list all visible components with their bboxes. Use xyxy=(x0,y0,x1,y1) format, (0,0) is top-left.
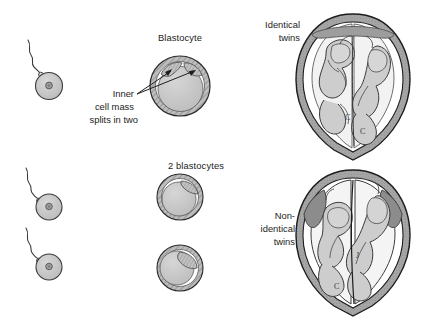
figure-canvas: Blastocyte Inner cell mass splits in two xyxy=(0,0,421,319)
inner-cell-mass-line-2: cell mass xyxy=(95,101,134,112)
non-identical-twins-label-line-3: twins xyxy=(274,236,296,247)
identical-twins-womb: C C Identical xyxy=(265,14,410,160)
blastocyte-pair: 2 blastocytes xyxy=(157,160,224,291)
blastocyte-label: Blastocyte xyxy=(158,32,202,43)
svg-text:C: C xyxy=(360,127,365,136)
twins-formation-figure: Blastocyte Inner cell mass splits in two xyxy=(0,0,421,319)
blastocyte-upper xyxy=(157,174,203,220)
blastocyte-single: Blastocyte xyxy=(137,32,210,116)
non-identical-twins-label-line-1: Non- xyxy=(275,210,295,221)
top-row-gamete-group xyxy=(28,40,63,100)
egg-cell-icon xyxy=(36,73,63,100)
identical-twins-label-line-2: twins xyxy=(279,32,301,43)
egg-cell-icon xyxy=(36,194,62,220)
svg-text:J: J xyxy=(356,251,359,260)
svg-text:C: C xyxy=(334,282,339,291)
bottom-row-gamete-group xyxy=(26,168,62,280)
blastocyte-lower xyxy=(157,245,203,291)
non-identical-twins-label-line-2: identical xyxy=(261,223,295,234)
inner-cell-mass-line-1: Inner xyxy=(113,88,134,99)
non-identical-twins-womb: C J Non- identical twins xyxy=(261,170,410,316)
identical-twins-label-line-1: Identical xyxy=(265,19,300,30)
egg-cell-icon xyxy=(36,254,62,280)
inner-cell-mass-line-3: splits in two xyxy=(90,114,138,125)
svg-text:C: C xyxy=(345,113,350,122)
inner-cell-mass-caption: Inner cell mass splits in two xyxy=(90,88,138,125)
sperm-icon xyxy=(28,40,45,79)
two-blastocytes-label: 2 blastocytes xyxy=(168,160,224,171)
